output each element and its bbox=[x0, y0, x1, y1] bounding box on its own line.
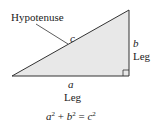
side-b-label: b bbox=[133, 38, 139, 49]
leg-right-label: Leg bbox=[133, 51, 150, 62]
side-a-label: a bbox=[68, 79, 74, 90]
hypotenuse-label: Hypotenuse bbox=[11, 12, 64, 23]
leg-bottom-label: Leg bbox=[64, 92, 81, 103]
hypotenuse-leader-line bbox=[36, 24, 68, 44]
eq-equals: = bbox=[76, 110, 88, 122]
eq-plus: + bbox=[55, 110, 67, 122]
pythagorean-equation: a2 + b2 = c2 bbox=[46, 108, 96, 122]
eq-c-exp: 2 bbox=[92, 110, 96, 118]
side-c-label: c bbox=[70, 33, 75, 44]
